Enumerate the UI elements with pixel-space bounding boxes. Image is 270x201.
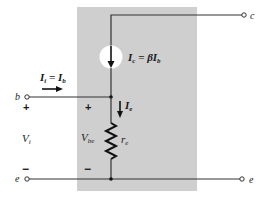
input-current-label: Ii = Ib: [39, 71, 66, 85]
base-terminal[interactable]: [25, 95, 29, 99]
vi-plus-sign: +: [23, 101, 29, 113]
emitter-right-terminal[interactable]: [240, 177, 244, 181]
vi-minus-sign: −: [22, 162, 29, 176]
emitter-right-terminal-label: e: [249, 174, 254, 185]
emitter-node-dot: [109, 177, 113, 181]
base-terminal-label: b: [15, 91, 20, 102]
input-current-arrow-icon: [42, 86, 63, 92]
dependent-current-source: [100, 46, 123, 69]
collector-terminal[interactable]: [242, 13, 246, 17]
transistor-model-box: [77, 7, 197, 191]
circuit-diagram: c Ic = βIb b Ii = Ib Ie re + Vbe − +: [0, 0, 270, 201]
collector-current-label: Ic = βIb: [127, 51, 161, 65]
vbe-plus-sign: +: [85, 101, 91, 113]
collector-terminal-label: c: [250, 10, 255, 21]
emitter-left-terminal-label: e: [15, 173, 20, 184]
vi-label: Vi: [22, 132, 31, 146]
emitter-left-terminal[interactable]: [25, 177, 29, 181]
vbe-minus-sign: −: [84, 162, 91, 176]
